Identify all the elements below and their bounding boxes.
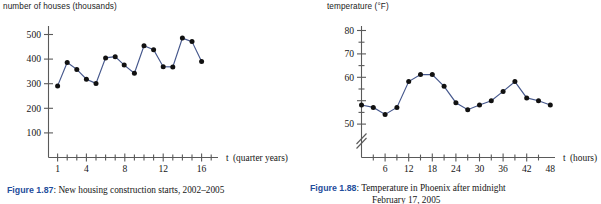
figure-1-87: number of houses (thousands) 500 400: [0, 0, 300, 204]
line-chart-phoenix-temperature: 80 70 60 50: [300, 12, 601, 182]
figure-caption-right-line2: February 17, 2005: [372, 195, 440, 204]
data-point: [430, 72, 435, 77]
line-chart-housing-starts: 500 400 300 200 100: [0, 12, 300, 182]
data-point: [65, 60, 70, 65]
y-tick-label: 70: [344, 48, 354, 59]
x-tick-label: 1: [55, 163, 60, 174]
chart-plot-left: 500 400 300 200 100: [0, 12, 300, 182]
data-point: [113, 54, 118, 59]
x-tick-label: 42: [522, 163, 532, 174]
y-tick-label: 100: [27, 127, 42, 138]
data-point: [512, 79, 517, 84]
x-axis-unit-right: (hours): [570, 153, 597, 164]
x-tick-label: 4: [84, 163, 89, 174]
caption-body-left: New housing construction starts, 2002–20…: [58, 185, 224, 195]
x-axis-variable-left: t: [226, 153, 229, 163]
figure-number-right: Figure 1.88: [310, 183, 356, 193]
x-axis-name-left: t (quarter years): [226, 153, 288, 164]
data-point: [453, 100, 458, 105]
data-point: [132, 71, 137, 76]
x-tick-label: 12: [404, 163, 414, 174]
y-tick-label: 80: [344, 25, 354, 36]
x-tick-label: 48: [546, 163, 556, 174]
data-point: [489, 98, 494, 103]
data-point: [442, 84, 447, 89]
data-point: [394, 105, 399, 110]
x-tick-label: 12: [158, 163, 168, 174]
x-tick-label: 30: [475, 163, 485, 174]
data-point: [406, 79, 411, 84]
caption-body-right: Temperature in Phoenix after midnight: [361, 183, 505, 193]
caption-separator-right: :: [356, 183, 359, 193]
data-point: [142, 43, 147, 48]
data-point: [418, 72, 423, 77]
y-tick-label: 300: [27, 78, 42, 89]
data-point: [161, 64, 166, 69]
x-axis-name-right: t (hours): [563, 153, 597, 164]
figure-number-left: Figure 1.87: [7, 185, 53, 195]
data-line-right: [362, 75, 551, 115]
data-point: [199, 59, 204, 64]
data-point: [190, 39, 195, 44]
x-tick-label: 16: [197, 163, 207, 174]
data-point: [55, 83, 60, 88]
figure-caption-left: Figure 1.87: New housing construction st…: [7, 185, 224, 195]
data-point: [122, 63, 127, 68]
x-axis-tick-labels-left: 1 4 8 12 16: [55, 163, 206, 174]
data-point: [465, 107, 470, 112]
data-markers-left: [55, 36, 204, 89]
data-point: [548, 103, 553, 108]
caption-separator-left: :: [53, 185, 56, 195]
data-point: [359, 103, 364, 108]
x-axis-tick-labels-right: 6 12 18 24 30 36 42 48: [383, 163, 556, 174]
y-tick-label: 400: [27, 53, 42, 64]
y-axis-title-right: temperature (°F): [327, 2, 389, 11]
data-line-left: [58, 38, 202, 86]
x-axis-variable-right: t: [563, 153, 566, 163]
data-point: [383, 112, 388, 117]
data-point: [371, 105, 376, 110]
data-point: [524, 95, 529, 100]
data-point: [84, 77, 89, 82]
data-point: [151, 47, 156, 52]
x-axis-unit-left: (quarter years): [233, 153, 288, 164]
figure-pair-page: number of houses (thousands) 500 400: [0, 0, 601, 204]
y-tick-label: 60: [344, 72, 354, 83]
data-point: [74, 67, 79, 72]
y-tick-label: 500: [27, 29, 42, 40]
x-tick-label: 8: [122, 163, 127, 174]
chart-plot-right: 80 70 60 50: [300, 12, 601, 182]
x-tick-label: 6: [383, 163, 388, 174]
data-point: [477, 103, 482, 108]
data-point: [501, 89, 506, 94]
y-axis-tick-labels-right: 80 70 60 50: [344, 25, 354, 130]
y-axis-tick-labels-left: 500 400 300 200 100: [27, 29, 42, 138]
figure-1-88: temperature (°F): [300, 0, 601, 204]
data-point: [94, 81, 99, 86]
y-tick-label: 200: [27, 103, 42, 114]
x-tick-label: 24: [451, 163, 461, 174]
y-axis-title-left: number of houses (thousands): [3, 2, 117, 11]
x-tick-label: 36: [498, 163, 508, 174]
figure-caption-right-line1: Figure 1.88: Temperature in Phoenix afte…: [310, 183, 506, 193]
x-tick-label: 18: [428, 163, 438, 174]
data-point: [103, 55, 108, 60]
y-tick-label: 50: [344, 118, 354, 129]
data-point: [536, 98, 541, 103]
data-point: [170, 64, 175, 69]
data-point: [180, 36, 185, 41]
